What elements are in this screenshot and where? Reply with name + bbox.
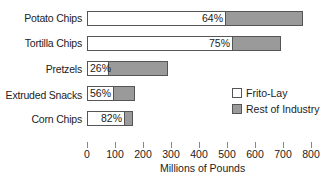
x-tick-label: 300 (156, 148, 186, 160)
x-tick-label: 700 (268, 148, 298, 160)
x-tick-label: 0 (72, 148, 102, 160)
share-label: 82% (101, 112, 122, 125)
bar-segment-rest-of-industry (226, 11, 303, 26)
x-tick-label: 100 (100, 148, 130, 160)
bar-extruded-snacks: 56% (87, 86, 135, 101)
legend-swatch-grey (232, 104, 242, 114)
share-label: 56% (90, 87, 111, 100)
legend-label: Frito-Lay (246, 87, 287, 99)
category-label-corn-chips: Corn Chips (31, 111, 82, 127)
bar-segment-rest-of-industry (109, 61, 168, 76)
x-tick-label: 600 (240, 148, 270, 160)
x-tick-label: 500 (212, 148, 242, 160)
category-label-extruded-snacks: Extruded Snacks (6, 87, 82, 103)
legend: Frito-Lay Rest of Industry (232, 85, 320, 117)
bar-segment-frito-lay: 56% (87, 86, 114, 101)
legend-swatch-white (232, 88, 242, 98)
x-tick-label: 200 (128, 148, 158, 160)
bar-segment-rest-of-industry (125, 111, 133, 126)
bar-segment-frito-lay: 82% (87, 111, 125, 126)
stacked-bar-chart: Potato Chips Tortilla Chips Pretzels Ext… (0, 0, 334, 183)
bar-pretzels: 26% (87, 61, 168, 76)
legend-label: Rest of Industry (246, 103, 320, 115)
legend-item-frito-lay: Frito-Lay (232, 85, 320, 100)
category-label-potato-chips: Potato Chips (24, 10, 82, 26)
share-label: 75% (209, 37, 230, 50)
x-tick-label: 400 (184, 148, 214, 160)
bar-segment-rest-of-industry (233, 36, 281, 51)
share-label: 26% (90, 62, 111, 75)
bar-tortilla-chips: 75% (87, 36, 281, 51)
x-tick-label: 800 (296, 148, 326, 160)
bar-corn-chips: 82% (87, 111, 133, 126)
bar-segment-frito-lay: 75% (87, 36, 233, 51)
bar-segment-frito-lay: 64% (87, 11, 226, 26)
bar-segment-rest-of-industry (114, 86, 135, 101)
x-axis-label: Millions of Pounds (160, 162, 245, 174)
category-label-pretzels: Pretzels (46, 61, 82, 77)
share-label: 64% (202, 12, 223, 25)
bar-segment-frito-lay: 26% (87, 61, 109, 76)
category-label-tortilla-chips: Tortilla Chips (25, 35, 82, 51)
bar-potato-chips: 64% (87, 11, 303, 26)
legend-item-rest-of-industry: Rest of Industry (232, 101, 320, 116)
